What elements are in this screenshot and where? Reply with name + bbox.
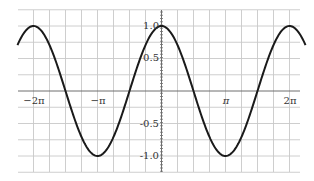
- x-tick-label-neg-2pi: −2π: [23, 95, 45, 106]
- y-tick-label-1: 1.0: [143, 20, 159, 31]
- y-tick-label-neg-0.5: -0.5: [140, 118, 159, 129]
- x-tick-label-2pi: 2π: [284, 95, 297, 106]
- x-tick-label-neg-pi: −π: [91, 95, 106, 106]
- x-tick-label-pi: π: [222, 95, 230, 106]
- cosine-chart: −2π −π π 2π 1.0 0.5 -0.5 -1.0: [0, 0, 314, 181]
- y-tick-label-neg-1: -1.0: [140, 150, 159, 161]
- y-tick-label-0.5: 0.5: [143, 52, 159, 63]
